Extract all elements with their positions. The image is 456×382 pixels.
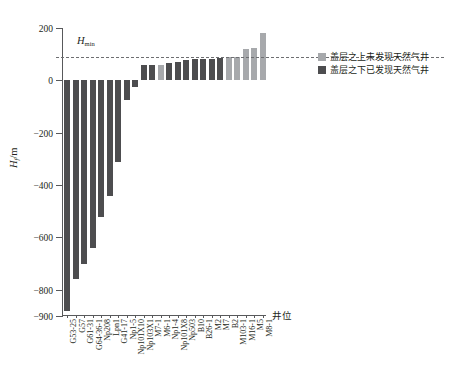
legend-swatch-light bbox=[318, 53, 326, 61]
y-tick: −800 bbox=[56, 290, 63, 291]
y-axis-title-unit: /m bbox=[8, 148, 19, 159]
x-tick bbox=[169, 315, 170, 318]
bar bbox=[90, 80, 96, 248]
x-tick bbox=[93, 315, 94, 318]
bar bbox=[183, 60, 189, 80]
bar bbox=[243, 49, 249, 80]
y-tick: 200 bbox=[56, 28, 63, 29]
legend: 盖层之上未发现天然气井盖层之下已发现天然气井 bbox=[318, 52, 429, 78]
y-tick-label: 0 bbox=[48, 76, 53, 86]
bars-layer bbox=[63, 28, 266, 315]
bar-chart: 2000−200−400−600−800−900 G53-25G57G61-31… bbox=[0, 0, 456, 382]
legend-swatch-dark bbox=[318, 66, 326, 74]
hmin-label-sub: min bbox=[85, 40, 95, 47]
bar bbox=[192, 59, 198, 80]
y-tick-label: −600 bbox=[33, 233, 53, 243]
bar bbox=[107, 80, 113, 195]
bar bbox=[124, 80, 130, 100]
bar bbox=[149, 65, 155, 81]
x-tick bbox=[220, 315, 221, 318]
bar bbox=[234, 57, 240, 80]
y-tick-label: −900 bbox=[33, 312, 53, 322]
x-tick bbox=[76, 315, 77, 318]
y-axis-title: Hf/m bbox=[8, 148, 19, 169]
legend-label: 盖层之上未发现天然气井 bbox=[330, 52, 429, 62]
bar bbox=[251, 48, 257, 81]
bar bbox=[115, 80, 121, 161]
x-tick bbox=[263, 315, 264, 318]
bar bbox=[81, 80, 87, 263]
x-tick bbox=[178, 315, 179, 318]
bar bbox=[166, 63, 172, 81]
y-tick: −600 bbox=[56, 237, 63, 238]
hmin-label-main: H bbox=[77, 35, 85, 46]
legend-item: 盖层之下已发现天然气井 bbox=[318, 65, 429, 75]
x-axis-title: 井位 bbox=[272, 308, 292, 322]
x-tick bbox=[152, 315, 153, 318]
legend-item: 盖层之上未发现天然气井 bbox=[318, 52, 429, 62]
legend-label: 盖层之下已发现天然气井 bbox=[330, 65, 429, 75]
x-tick bbox=[101, 315, 102, 318]
bar bbox=[226, 57, 232, 81]
bar bbox=[209, 59, 215, 80]
x-tick bbox=[127, 315, 128, 318]
x-tick bbox=[118, 315, 119, 318]
x-tick bbox=[110, 315, 111, 318]
x-tick bbox=[212, 315, 213, 318]
x-tick bbox=[144, 315, 145, 318]
x-tick bbox=[135, 315, 136, 318]
y-tick-label: 200 bbox=[39, 24, 53, 34]
x-tick bbox=[246, 315, 247, 318]
y-tick: 0 bbox=[56, 80, 63, 81]
x-tick bbox=[254, 315, 255, 318]
bar bbox=[141, 65, 147, 81]
y-tick-label: −200 bbox=[33, 129, 53, 139]
bar bbox=[132, 80, 138, 87]
bar bbox=[73, 80, 79, 279]
bar bbox=[158, 65, 164, 81]
y-tick: −200 bbox=[56, 133, 63, 134]
bar bbox=[175, 62, 181, 81]
y-tick: −900 bbox=[56, 316, 63, 317]
x-tick bbox=[67, 315, 68, 318]
x-tick bbox=[84, 315, 85, 318]
bar bbox=[98, 80, 104, 216]
plot-area: 2000−200−400−600−800−900 G53-25G57G61-31… bbox=[62, 28, 266, 316]
x-tick bbox=[237, 315, 238, 318]
x-tick bbox=[229, 315, 230, 318]
x-tick bbox=[186, 315, 187, 318]
hmin-annotation-label: Hmin bbox=[77, 35, 95, 46]
x-tick bbox=[203, 315, 204, 318]
bar bbox=[200, 59, 206, 80]
bar bbox=[217, 58, 223, 81]
x-tick bbox=[195, 315, 196, 318]
x-tick bbox=[161, 315, 162, 318]
bar bbox=[64, 80, 70, 310]
y-tick-label: −800 bbox=[33, 286, 53, 296]
y-axis-title-main: H bbox=[8, 160, 19, 168]
y-tick-label: −400 bbox=[33, 181, 53, 191]
y-tick: −400 bbox=[56, 185, 63, 186]
